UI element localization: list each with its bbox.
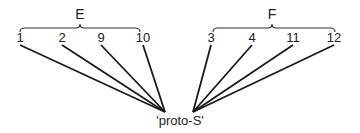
edge-line [101, 45, 165, 112]
curly-brace [20, 24, 140, 32]
edge-line [143, 45, 165, 112]
edge-line [62, 45, 165, 112]
leaf-label: 4 [248, 30, 255, 45]
group-label: F [268, 6, 277, 22]
leaf-label: 10 [136, 30, 150, 45]
leaf-label: 3 [207, 30, 214, 45]
edge-line [193, 45, 334, 112]
labels: E12910F341112 [16, 6, 341, 45]
edge-line [20, 45, 165, 112]
tree-diagram: E12910F341112 'proto-S' [0, 0, 360, 133]
edges [20, 45, 334, 112]
root-label: 'proto-S' [156, 113, 204, 128]
leaf-label: 9 [97, 30, 104, 45]
leaf-label: 2 [58, 30, 65, 45]
leaf-label: 11 [286, 30, 300, 45]
curly-brace [213, 24, 335, 32]
leaf-label: 1 [16, 30, 23, 45]
group-label: E [75, 6, 84, 22]
leaf-label: 12 [327, 30, 341, 45]
